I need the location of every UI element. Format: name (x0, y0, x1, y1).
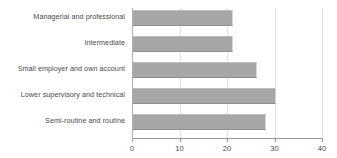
x-tick-label-20: 20 (223, 144, 231, 153)
tick-mark-40 (322, 138, 323, 142)
category-label-semi-routine-and-routine: Semi-routine and routine (0, 117, 125, 125)
category-label-intermediate: Intermediate (0, 39, 125, 47)
x-tick-label-40: 40 (318, 144, 326, 153)
tick-mark-20 (227, 138, 228, 142)
plot-area: 0 10 20 30 40 (132, 8, 322, 138)
x-tick-label-0: 0 (130, 144, 134, 153)
bar-intermediate (133, 36, 233, 52)
gridline-30 (275, 8, 276, 138)
bar-managerial-and-professional (133, 10, 233, 26)
category-label-lower-supervisory-and-technical: Lower supervisory and technical (0, 91, 125, 99)
tick-mark-30 (275, 138, 276, 142)
bar-semi-routine-and-routine (133, 114, 266, 130)
category-label-managerial-and-professional: Managerial and professional (0, 13, 125, 21)
gridline-40 (322, 8, 323, 138)
x-tick-label-10: 10 (175, 144, 183, 153)
tick-mark-10 (180, 138, 181, 142)
bar-small-employer-and-own-account (133, 62, 257, 78)
category-axis-labels: Managerial and professional Intermediate… (0, 0, 129, 138)
category-label-small-employer-and-own-account: Small employer and own account (0, 65, 125, 73)
tick-mark-0 (132, 138, 133, 142)
bar-chart: Managerial and professional Intermediate… (0, 0, 337, 158)
x-tick-label-30: 30 (270, 144, 278, 153)
bar-lower-supervisory-and-technical (133, 88, 276, 104)
